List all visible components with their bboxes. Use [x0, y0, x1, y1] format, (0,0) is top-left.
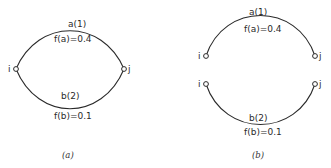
arc-b-lower [16, 69, 124, 109]
arc-b-flow: f(b)=0.1 [54, 111, 92, 121]
node-j-top [313, 54, 318, 59]
arc-b-name: b(2) [61, 91, 79, 101]
node-i-top-label: i [198, 51, 201, 61]
node-i-top [204, 54, 209, 59]
node-i-bottom [204, 82, 209, 87]
arc-a-upper [206, 16, 315, 57]
node-j-bottom [313, 82, 318, 87]
node-j-label: j [127, 64, 131, 74]
panel-b: i j i j a(1) f(a)=0.4 b(2) f(b)=0.1 (b) [198, 7, 322, 160]
arc-b-flow: f(b)=0.1 [244, 127, 282, 137]
node-j-top-label: j [318, 51, 322, 61]
node-i [14, 67, 19, 72]
caption-a: (a) [62, 150, 74, 160]
arc-a-name: a(1) [249, 7, 267, 17]
node-i-bottom-label: i [198, 79, 201, 89]
node-j-bottom-label: j [318, 79, 322, 89]
node-j [122, 67, 127, 72]
arc-a-flow: f(a)=0.4 [244, 24, 282, 34]
arc-b-name: b(2) [249, 113, 267, 123]
network-figure: i j a(1) f(a)=0.4 b(2) f(b)=0.1 (a) i j … [0, 0, 331, 168]
arc-a-flow: f(a)=0.4 [54, 34, 92, 44]
node-i-label: i [8, 64, 11, 74]
arc-a-name: a(1) [68, 19, 86, 29]
panel-a: i j a(1) f(a)=0.4 b(2) f(b)=0.1 (a) [8, 19, 131, 160]
caption-b: (b) [252, 150, 264, 160]
